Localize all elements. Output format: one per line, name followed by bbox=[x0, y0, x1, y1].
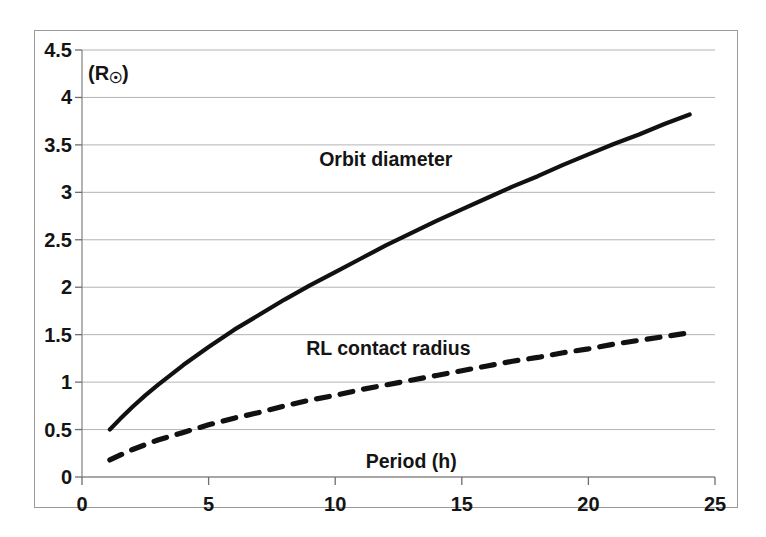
x-axis-tick-label: 5 bbox=[203, 493, 214, 516]
chart-plot-frame bbox=[34, 30, 738, 508]
y-axis-tick-label: 3 bbox=[22, 181, 72, 204]
y-axis-tick-label: 1.5 bbox=[22, 323, 72, 346]
chart-annotation-orbit-diameter: Orbit diameter bbox=[319, 148, 452, 171]
y-unit-open: (R bbox=[88, 62, 109, 84]
x-axis-tick-label: 20 bbox=[577, 493, 599, 516]
x-axis-tick-label: 15 bbox=[451, 493, 473, 516]
y-unit-close: ) bbox=[122, 62, 129, 84]
chart-annotation-period-h: Period (h) bbox=[366, 449, 457, 472]
x-axis-tick-label: 0 bbox=[76, 493, 87, 516]
y-axis-tick-label: 2.5 bbox=[22, 228, 72, 251]
y-axis-tick-label: 1 bbox=[22, 371, 72, 394]
y-axis-tick-label: 3.5 bbox=[22, 133, 72, 156]
y-axis-unit-label: (R☉) bbox=[88, 62, 129, 86]
y-axis-tick-label: 0 bbox=[22, 466, 72, 489]
sun-symbol-icon: ☉ bbox=[109, 70, 122, 86]
y-axis-tick-label: 4.5 bbox=[22, 39, 72, 62]
y-axis-tick-label: 4 bbox=[22, 86, 72, 109]
y-axis-tick-label: 0.5 bbox=[22, 418, 72, 441]
chart-figure: (R☉) 00.511.522.533.544.5 0510152025 Orb… bbox=[0, 0, 766, 537]
x-axis-tick-label: 25 bbox=[704, 493, 726, 516]
y-axis-tick-label: 2 bbox=[22, 276, 72, 299]
x-axis-tick-label: 10 bbox=[324, 493, 346, 516]
chart-annotation-rl-contact-radius: RL contact radius bbox=[306, 336, 470, 359]
